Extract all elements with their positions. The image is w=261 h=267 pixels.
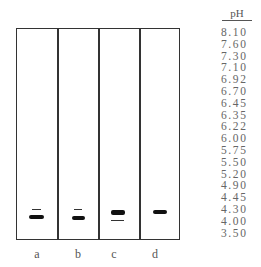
lane-label-a: a xyxy=(30,247,44,262)
lane-label-d: d xyxy=(148,247,162,262)
lane-divider-cd xyxy=(139,28,141,240)
ph-scale-list: 8.10 7.60 7.30 7.10 6.92 6.70 6.45 6.35 … xyxy=(221,27,248,239)
ph-value: 7.60 xyxy=(221,39,248,51)
lane-divider-bc xyxy=(98,28,100,240)
band-lane-b-thin xyxy=(74,209,82,210)
ph-value: 5.75 xyxy=(221,145,248,157)
ph-value: 5.50 xyxy=(221,157,248,169)
band-lane-a-thin xyxy=(32,209,41,210)
band-lane-c-thick xyxy=(111,210,125,215)
band-lane-b-thick xyxy=(72,216,85,220)
band-lane-a-thick xyxy=(29,215,44,219)
ph-value: 4.30 xyxy=(221,204,248,216)
ph-value: 4.00 xyxy=(221,216,248,228)
ph-header: pH xyxy=(222,7,252,21)
ph-value: 6.70 xyxy=(221,86,248,98)
lane-label-b: b xyxy=(71,247,85,262)
band-lane-d-thick xyxy=(153,210,167,214)
ph-value: 3.50 xyxy=(221,228,248,240)
band-lane-c-thin xyxy=(111,220,124,221)
ph-value: 6.45 xyxy=(221,98,248,110)
lane-label-c: c xyxy=(107,247,121,262)
lane-divider-ab xyxy=(57,28,59,240)
